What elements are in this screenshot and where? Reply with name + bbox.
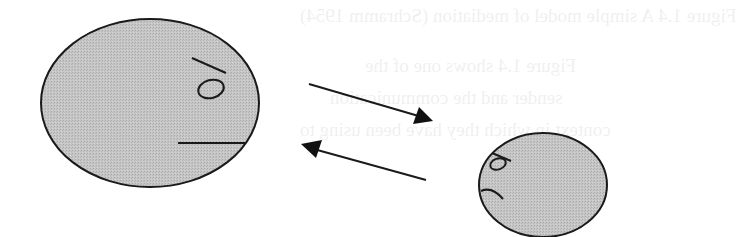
arrow-to-small-face bbox=[309, 84, 433, 124]
arrow-to-large-face bbox=[301, 140, 426, 180]
arrow-shaft bbox=[310, 148, 426, 180]
small-face bbox=[479, 133, 607, 237]
arrowhead-right bbox=[413, 107, 433, 124]
large-face-head bbox=[41, 19, 259, 187]
arrowhead-left bbox=[301, 140, 322, 158]
arrow-shaft bbox=[309, 84, 422, 117]
small-face-head bbox=[479, 133, 607, 237]
large-face bbox=[41, 19, 259, 187]
